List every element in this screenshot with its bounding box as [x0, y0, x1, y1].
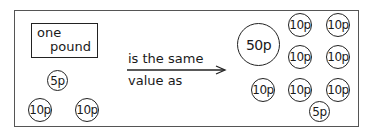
coin-50p: 50p [237, 23, 280, 66]
coin-10p: 10p [251, 78, 275, 102]
coin-10p: 10p [288, 45, 312, 69]
coin-10p: 10p [326, 78, 350, 102]
coin-10p: 10p [288, 13, 312, 37]
coin-10p: 10p [288, 78, 312, 102]
coin-5p: 5p [309, 101, 330, 122]
coin-10p: 10p [326, 13, 350, 37]
coin-10p: 10p [326, 45, 350, 69]
